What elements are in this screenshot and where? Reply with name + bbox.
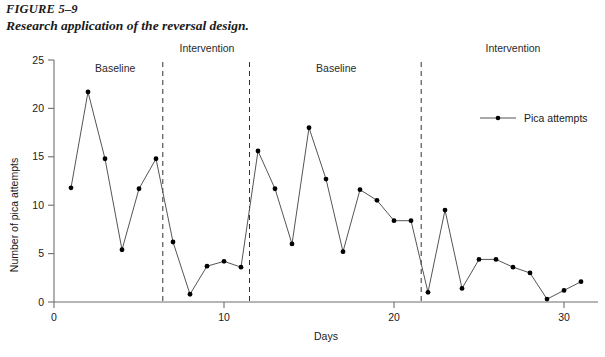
data-point [477,257,482,262]
line-chart: 0510152025 0102030 BaselineInterventionB… [0,30,605,357]
phase-label-baseline-3: Baseline [316,62,356,74]
x-axis-ticks: 0102030 [51,302,570,323]
y-axis-ticks: 0510152025 [32,54,54,308]
data-point [460,286,465,291]
legend-marker-icon [496,116,501,121]
figure-number: FIGURE 5–9 [6,2,249,18]
data-point [409,218,414,223]
data-point [290,242,295,247]
x-axis-title: Days [314,330,338,342]
x-tick-label-30: 30 [558,311,570,323]
data-point [103,156,108,161]
series-line [71,92,581,299]
y-axis-title: Number of pica attempts [8,158,20,272]
data-point [341,249,346,254]
data-point [375,198,380,203]
phase-labels: BaselineInterventionBaselineIntervention [95,42,541,74]
legend-label-pica-attempts: Pica attempts [524,112,588,124]
data-point [69,185,74,190]
x-tick-label-20: 20 [388,311,400,323]
data-point [511,265,516,270]
data-point [562,288,567,293]
data-point [154,156,159,161]
data-point [171,240,176,245]
y-tick-label-0: 0 [38,296,44,308]
data-point [137,186,142,191]
data-series-pica-attempts [69,90,584,302]
data-point [120,247,125,252]
data-point [307,125,312,130]
y-tick-label-5: 5 [38,247,44,259]
data-point [256,149,261,154]
y-tick-label-15: 15 [32,150,44,162]
data-point [239,265,244,270]
data-point [86,90,91,95]
chart-legend: Pica attempts [480,112,588,124]
data-point [392,218,397,223]
data-point [273,186,278,191]
data-point [324,177,329,182]
phase-label-intervention-4: Intervention [486,42,541,54]
data-point [358,187,363,192]
data-point [188,292,193,297]
x-tick-label-10: 10 [218,311,230,323]
chart-container: 0510152025 0102030 BaselineInterventionB… [0,30,605,357]
data-point [545,297,550,302]
data-point [205,264,210,269]
phase-divider-lines [163,62,421,302]
data-point [494,257,499,262]
data-point [443,208,448,213]
x-tick-label-0: 0 [51,311,57,323]
data-point [528,271,533,276]
data-point [426,290,431,295]
y-tick-label-20: 20 [32,102,44,114]
y-tick-label-25: 25 [32,54,44,66]
data-point [579,279,584,284]
y-tick-label-10: 10 [32,199,44,211]
phase-label-baseline-1: Baseline [95,62,135,74]
data-point [222,259,227,264]
phase-label-intervention-2: Intervention [180,42,235,54]
